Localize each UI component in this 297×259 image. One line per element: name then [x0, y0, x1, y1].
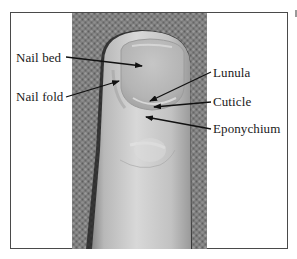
label-nail-fold: Nail fold [16, 90, 63, 103]
label-eponychium: Eponychium [213, 122, 280, 135]
label-cuticle: Cuticle [213, 95, 251, 108]
label-nail-bed: Nail bed [16, 51, 61, 64]
label-lunula: Lunula [213, 66, 250, 79]
